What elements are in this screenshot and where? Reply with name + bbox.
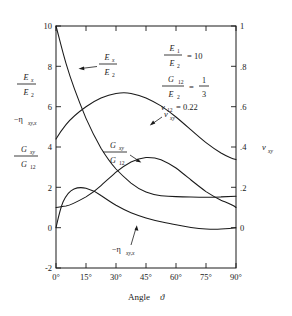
- x-tick-30: 30°: [110, 272, 122, 282]
- curve-ex-over-e2: [56, 26, 236, 197]
- y-right-title-subscript: xy: [267, 148, 273, 154]
- figure-composite-engineering-constants: 10 8 6 4 2 0 -2 1 .8 .6 .4 .2 0 ν xy: [0, 0, 292, 316]
- y-left-title-2-sub: xy,x: [27, 120, 37, 126]
- y-left-title-3-num: G: [21, 145, 27, 154]
- annotation-line1-den: E: [168, 59, 174, 68]
- y-left-title-3-den-sub: 12: [30, 164, 36, 170]
- y-left-tick-2: 2: [48, 183, 52, 193]
- x-tick-75: 75°: [200, 272, 212, 282]
- y-left-title-1-num-sub: x: [30, 77, 34, 83]
- annotation-line3-value: = 0.22: [176, 102, 198, 112]
- annotation-line1-value: = 10: [187, 51, 202, 61]
- y-axis-left-tick-labels: 10 8 6 4 2 0 -2: [44, 21, 53, 273]
- y-right-tick-04: .4: [240, 142, 247, 152]
- label-gxy-den: G: [110, 156, 116, 165]
- chart-svg: 10 8 6 4 2 0 -2 1 .8 .6 .4 .2 0 ν xy: [0, 0, 292, 316]
- y-axis-left-title-gxy-g12: G xy G 12: [14, 145, 38, 170]
- y-left-tick-8: 8: [48, 62, 52, 72]
- annotation-line2-eq: =: [189, 82, 194, 92]
- annotation-line1-num: E: [168, 44, 174, 53]
- y-left-tick-minus2: -2: [45, 263, 52, 273]
- label-ex-over-e2: E x E 2: [79, 53, 118, 78]
- x-tick-45: 45°: [140, 272, 152, 282]
- y-left-title-3-den: G: [21, 160, 27, 169]
- label-nu-arrowhead: [150, 121, 156, 126]
- x-axis-tick-labels: 0° 15° 30° 45° 60° 75° 90°: [52, 272, 242, 282]
- y-axis-right-title: ν xy: [262, 142, 273, 153]
- y-right-title-symbol: ν: [262, 142, 266, 152]
- annotation-material-constants: E 1 E 2 = 10 G 12 E 2 = 1 3 ν 12 = 0.22: [161, 44, 209, 113]
- annotation-line2-den-sub: 2: [177, 94, 180, 100]
- y-right-tick-08: .8: [240, 62, 246, 72]
- annotation-line2-den: E: [167, 90, 173, 99]
- y-left-tick-4: 4: [48, 142, 53, 152]
- x-tick-60: 60°: [170, 272, 182, 282]
- label-ex-num-sub: x: [111, 57, 115, 63]
- annotation-line2-num: G: [168, 75, 174, 84]
- y-left-tick-6: 6: [48, 102, 52, 112]
- label-nu-sub: xy: [169, 115, 175, 121]
- y-axis-right-tick-labels: 1 .8 .6 .4 .2 0: [240, 21, 247, 233]
- annotation-line1-num-sub: 1: [177, 48, 180, 54]
- y-left-title-1-num: E: [22, 73, 28, 82]
- annotation-line2-rnum: 1: [202, 76, 206, 85]
- y-axis-left-title-ex-e2: E x E 2: [17, 73, 36, 98]
- annotation-line2-rden: 3: [202, 90, 206, 99]
- label-ex-den: E: [103, 68, 109, 77]
- x-axis-title-word: Angle: [128, 292, 150, 302]
- label-gxy-den-sub: 12: [119, 160, 125, 166]
- y-right-tick-06: .6: [240, 102, 246, 112]
- plot-frame: [56, 26, 236, 268]
- label-gxy-over-g12: G xy G 12: [103, 141, 141, 166]
- y-left-title-3-num-sub: xy: [29, 149, 35, 155]
- annotation-line1-den-sub: 2: [177, 63, 180, 69]
- y-axis-left-title-eta: −η xy,x: [14, 115, 37, 126]
- curve-gxy-over-g12: [56, 158, 236, 208]
- label-ex-num: E: [103, 53, 109, 62]
- label-eta-sym: −η: [112, 245, 121, 254]
- y-right-tick-1: 1: [240, 21, 244, 31]
- x-axis-title-symbol: ϑ: [160, 292, 165, 302]
- y-right-tick-0: 0: [240, 223, 244, 233]
- x-axis-ticks: [56, 26, 236, 268]
- y-right-tick-02: .2: [240, 183, 246, 193]
- y-left-title-1-den-sub: 2: [31, 92, 34, 98]
- y-left-title-2-sym: −η: [14, 115, 23, 124]
- label-ex-den-sub: 2: [112, 72, 115, 78]
- y-axis-left-ticks: [56, 26, 61, 268]
- x-tick-0: 0°: [52, 272, 60, 282]
- label-eta-arrowhead: [135, 225, 139, 231]
- x-tick-15: 15°: [80, 272, 92, 282]
- y-left-tick-10: 10: [44, 21, 53, 31]
- y-left-title-1-den: E: [22, 88, 28, 97]
- annotation-line2-num-sub: 12: [178, 79, 184, 85]
- y-axis-right-ticks: [231, 26, 236, 228]
- label-gxy-num: G: [110, 141, 116, 150]
- label-neg-eta-xy-x: −η xy,x: [112, 225, 138, 255]
- x-tick-90: 90°: [230, 272, 242, 282]
- label-eta-sub: xy,x: [125, 250, 135, 256]
- label-ex-arrowhead: [79, 67, 85, 71]
- curve-nu-xy: [56, 93, 236, 160]
- x-axis-title: Angle ϑ: [128, 292, 165, 302]
- y-left-tick-0: 0: [48, 223, 52, 233]
- label-gxy-num-sub: xy: [118, 145, 124, 151]
- label-nu-sym: ν: [164, 109, 168, 119]
